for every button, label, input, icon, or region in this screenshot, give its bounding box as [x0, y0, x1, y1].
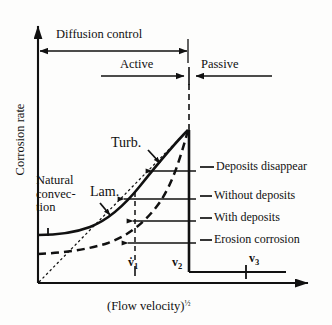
x-tick-label-v2-sub: 2 [178, 261, 182, 271]
curve-label-laminar: Lam. [90, 184, 119, 199]
curve-label-natural-convection: Natural convec- tion [36, 174, 90, 215]
x-axis-title: (Flow velocity)½ [107, 300, 190, 314]
curve-label-turbulent: Turb. [111, 135, 141, 150]
region-label-diffusion-control: Diffusion control [56, 28, 142, 42]
x-axis-title-text: (Flow velocity) [107, 299, 184, 313]
y-axis-title: Corrosion rate [13, 80, 28, 200]
x-tick-label-v2: v2 [172, 256, 182, 272]
x-tick-label-v1: v̇1 [128, 256, 138, 272]
callout-without-deposits: Without deposits [214, 189, 295, 202]
x-tick-label-v3-sub: 3 [255, 257, 259, 267]
region-label-passive: Passive [201, 58, 239, 72]
callout-leader-group [124, 167, 214, 243]
x-tick-label-v3: v3 [249, 252, 259, 268]
x-axis-title-exponent: ½ [184, 299, 190, 308]
callout-with-deposits: With deposits [214, 211, 280, 224]
callout-deposits-disappear: Deposits disappear [216, 160, 307, 173]
corrosion-rate-flow-velocity-figure: Diffusion control Active Passive Corrosi… [0, 0, 332, 325]
laminar-label-pointer [100, 203, 110, 215]
callout-erosion-corrosion: Erosion corrosion [214, 233, 300, 246]
curve-label-pointer-group [100, 150, 160, 215]
turbulent-label-pointer [148, 150, 160, 163]
x-tick-label-v1-sub: 1 [134, 261, 138, 271]
region-label-active: Active [120, 58, 153, 72]
